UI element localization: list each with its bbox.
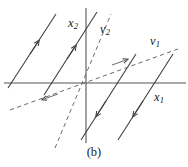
trajectory-arrow-2: [67, 47, 75, 59]
eigenvector-label-v2-base: v: [100, 22, 106, 36]
axis-label-x2-base: x: [68, 16, 74, 30]
trajectory-line-4: [118, 54, 173, 140]
axis-label-x1: x1: [154, 91, 164, 105]
phase-portrait-canvas: [0, 0, 188, 167]
axis-label-x2-sub: 2: [74, 21, 78, 31]
trajectory-arrow-4: [134, 101, 143, 115]
figure-caption: (b): [0, 146, 188, 159]
eigenvector-label-v2: v2: [100, 23, 110, 37]
trajectory-arrow-3: [97, 101, 106, 115]
eigenvector-label-v2-sub: 2: [106, 27, 110, 37]
eigenline-v1: [10, 49, 178, 110]
eigenline-v1-arrow-outward: [112, 60, 126, 65]
axis-label-x2: x2: [68, 17, 78, 31]
eigenvector-label-v1-sub: 1: [156, 39, 160, 49]
trajectory-arrow-1: [30, 42, 38, 54]
eigenvector-label-v1-base: v: [150, 34, 156, 48]
eigenvector-label-v1: v1: [150, 35, 160, 49]
axis-label-x1-sub: 1: [160, 95, 164, 105]
axis-label-x1-base: x: [154, 90, 160, 104]
phase-portrait-figure: x2 v2 v1 x1 (b): [0, 0, 188, 167]
trajectories-group: [8, 12, 173, 140]
